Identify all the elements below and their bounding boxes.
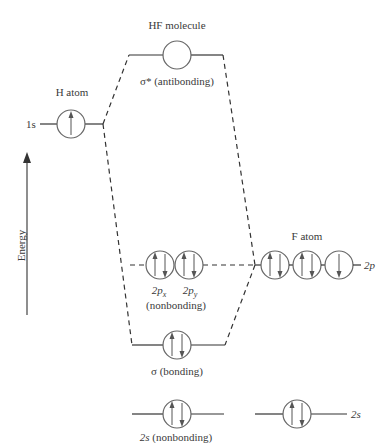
f-2s-level	[255, 400, 347, 428]
2py-text: 2p	[183, 284, 194, 296]
2px-text: 2p	[152, 284, 163, 296]
nonbonding-2p-level	[146, 251, 203, 279]
nonbonding-2px-orbital-circle	[146, 251, 174, 279]
h-1s-label-text: 1s	[26, 118, 36, 130]
f-atom-title: F atom	[292, 231, 323, 242]
antibonding-level	[129, 41, 223, 69]
nonbonding-2s-label: 2s (nonbonding)	[140, 432, 212, 443]
bonding-label: σ (bonding)	[151, 366, 203, 377]
2px-subscript: x	[163, 290, 167, 299]
energy-axis-label: Energy	[16, 230, 27, 262]
h-atom-title: H atom	[56, 87, 89, 98]
nonbonding-2s-level	[132, 400, 224, 428]
hf-molecule-title: HF molecule	[148, 20, 205, 31]
nonbonding-2s-suffix: (nonbonding)	[150, 431, 213, 443]
nonbonding-2s-prefix: 2s	[140, 431, 150, 443]
nonbonding-2py-label: 2py	[183, 285, 198, 299]
nonbonding-p-caption: (nonbonding)	[146, 300, 206, 311]
2py-subscript: y	[194, 290, 198, 299]
antibonding-label: σ* (antibonding)	[140, 76, 214, 87]
f-2s-label: 2s	[351, 409, 361, 420]
bonding-level	[132, 331, 225, 359]
f-2p-level	[255, 251, 361, 279]
h-1s-label: 1s	[26, 119, 36, 130]
h-1s-level	[40, 110, 103, 138]
nonbonding-2px-label: 2px	[152, 285, 167, 299]
antibonding-orbital-circle	[163, 41, 191, 69]
nonbonding-2py-orbital-circle	[175, 251, 203, 279]
f-2p-label: 2p	[364, 260, 375, 271]
